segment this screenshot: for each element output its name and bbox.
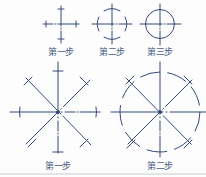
small-step3-figure	[140, 4, 181, 45]
bottom-divider	[0, 173, 206, 175]
small-step1-label: 第一步	[48, 47, 74, 57]
large-step2-figure	[111, 62, 206, 157]
large-step1-figure	[10, 62, 100, 153]
small-step2-figure	[92, 4, 132, 44]
small-step1-figure	[43, 6, 79, 43]
small-step3-label: 第三步	[147, 47, 173, 57]
diagram-drawing	[0, 0, 206, 177]
large-step2-label: 第二步	[147, 161, 173, 171]
small-step2-label: 第二步	[99, 47, 125, 57]
diagram-canvas: 第一步 第二步 第三步 第一步 第二步	[0, 0, 206, 177]
large-step1-label: 第一步	[45, 161, 71, 171]
